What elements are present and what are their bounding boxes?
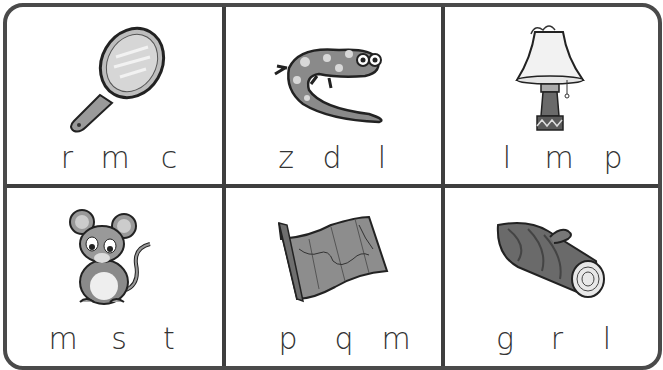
letter-choices: m s t xyxy=(7,319,222,359)
map-icon xyxy=(226,194,441,324)
letter-choices: r m c xyxy=(7,138,222,178)
letter-option[interactable]: m xyxy=(539,138,579,178)
letter-option[interactable]: m xyxy=(376,319,416,359)
letter-choices: g r l xyxy=(445,319,660,359)
cell-lamp[interactable]: l m p xyxy=(445,7,660,184)
letter-option[interactable]: m xyxy=(43,319,83,359)
letter-option[interactable]: p xyxy=(268,319,308,359)
worksheet-grid: r m c z d l xyxy=(3,3,662,370)
letter-option[interactable]: c xyxy=(149,138,189,178)
cell-map[interactable]: p q m xyxy=(226,188,441,365)
mouse-icon xyxy=(7,194,222,324)
letter-option[interactable]: g xyxy=(485,319,525,359)
letter-option[interactable]: z xyxy=(266,138,306,178)
letter-option[interactable]: l xyxy=(362,138,402,178)
letter-choices: l m p xyxy=(445,138,660,178)
letter-option[interactable]: l xyxy=(487,138,527,178)
log-icon xyxy=(445,194,660,324)
letter-choices: p q m xyxy=(226,319,441,359)
lamp-icon xyxy=(445,13,660,143)
mirror-icon xyxy=(7,13,222,143)
letter-option[interactable]: r xyxy=(537,319,577,359)
cell-mirror[interactable]: r m c xyxy=(7,7,222,184)
letter-option[interactable]: l xyxy=(587,319,627,359)
letter-choices: z d l xyxy=(226,138,441,178)
letter-option[interactable]: r xyxy=(47,138,87,178)
letter-option[interactable]: s xyxy=(99,319,139,359)
cell-log[interactable]: g r l xyxy=(445,188,660,365)
cell-mouse[interactable]: m s t xyxy=(7,188,222,365)
salamander-icon xyxy=(226,13,441,143)
letter-option[interactable]: q xyxy=(324,319,364,359)
letter-option[interactable]: d xyxy=(312,138,352,178)
letter-option[interactable]: p xyxy=(593,138,633,178)
letter-option[interactable]: m xyxy=(95,138,135,178)
letter-option[interactable]: t xyxy=(149,319,189,359)
cell-salamander[interactable]: z d l xyxy=(226,7,441,184)
